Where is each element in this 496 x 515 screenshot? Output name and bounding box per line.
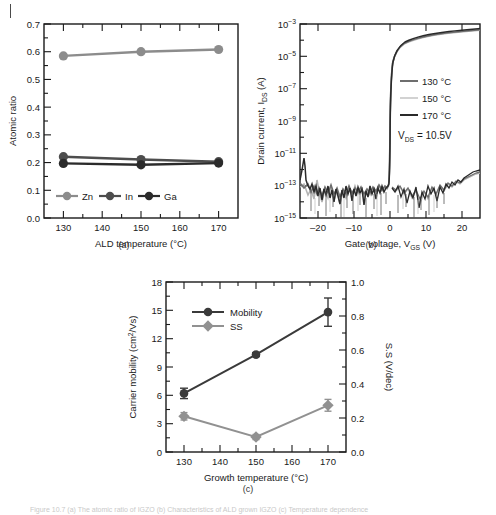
panel-b-caption: (b) (248, 240, 494, 250)
panel-c-ytick-r-2: 0.4 (351, 379, 364, 390)
panel-b-x-ticklabels: –20 –10 0 10 20 (310, 222, 467, 233)
panel-a-svg: 0.0 0.1 0.2 0.3 0.4 0.5 0.6 0.7 (2, 8, 246, 258)
panel-b-ytick-1: 10−5 (278, 50, 297, 62)
panel-c-xlabel: Growth temperature (°C) (204, 472, 308, 483)
panel-c-mobility-ss: 0 3 6 9 12 15 18 0.0 0.2 0.4 0.6 (96, 268, 426, 498)
panel-a-xtick-4: 170 (211, 222, 227, 233)
panel-c-ytick-r-3: 0.6 (351, 345, 364, 356)
panel-b-ytick-5: 10−13 (274, 179, 296, 191)
panel-a-ytick-4: 0.4 (27, 102, 40, 113)
panel-c-ytick-l-3: 9 (157, 362, 162, 373)
panel-c-xtick-4: 170 (320, 456, 336, 467)
panel-a-ytick-7: 0.7 (27, 19, 40, 30)
panel-b-xtick-4: 20 (457, 222, 468, 233)
panel-c-ytick-l-1: 3 (157, 418, 162, 429)
panel-c-ytick-l-6: 18 (151, 277, 162, 288)
panel-c-ytick-l-2: 6 (157, 390, 162, 401)
panel-c-ylabel-right: S.S (V/dec) (384, 343, 395, 392)
panel-b-svg: 10−3 10−5 10−7 10−9 10−11 10−13 10−15 –2… (248, 8, 494, 258)
panel-c-y-ticklabels-left: 0 3 6 9 12 15 18 (151, 277, 162, 458)
panel-a-x-ticklabels: 130 140 150 160 170 (55, 222, 226, 233)
panel-c-xtick-3: 160 (284, 456, 300, 467)
panel-a-ytick-1: 0.1 (27, 185, 40, 196)
panel-a-ytick-2: 0.2 (27, 157, 40, 168)
panel-b-y-ticklabels: 10−3 10−5 10−7 10−9 10−11 10−13 10−15 (274, 18, 296, 224)
panel-b-ytick-0: 10−3 (278, 18, 297, 30)
panel-c-ytick-r-5: 1.0 (351, 277, 364, 288)
panel-a-legend-in: In (125, 191, 133, 202)
panel-c-ytick-r-4: 0.8 (351, 311, 364, 322)
panel-b-legend-150: 150 °C (422, 93, 451, 104)
panel-a-xtick-1: 140 (94, 222, 110, 233)
panel-b-legend-130: 130 °C (422, 76, 451, 87)
panel-c-x-ticklabels: 130 140 150 160 170 (176, 456, 336, 467)
panel-b-ytick-4: 10−11 (274, 147, 296, 159)
panel-c-ytick-l-5: 15 (151, 305, 162, 316)
panel-b-ytick-3: 10−9 (278, 115, 297, 127)
panel-c-xtick-2: 150 (248, 456, 264, 467)
panel-c-ytick-r-1: 0.2 (351, 413, 364, 424)
panel-a-ylabel: Atomic ratio (7, 96, 18, 146)
panel-a-ytick-3: 0.3 (27, 129, 40, 140)
panel-c-xtick-0: 130 (176, 456, 192, 467)
panel-c-ylabel-left: Carrier mobility (cm2/Vs) (127, 315, 138, 418)
panel-c-legend-mobility: Mobility (230, 307, 262, 318)
panel-c-ytick-l-4: 12 (151, 333, 162, 344)
panel-c-legend-ss: SS (230, 321, 243, 332)
panel-c-y-ticklabels-right: 0.0 0.2 0.4 0.6 0.8 1.0 (351, 277, 364, 458)
panel-a-ytick-5: 0.5 (27, 74, 40, 85)
panel-c-caption: (c) (0, 484, 496, 494)
panel-b-xtick-3: 10 (421, 222, 432, 233)
figure-page: 0.0 0.1 0.2 0.3 0.4 0.5 0.6 0.7 (0, 0, 496, 515)
panel-b-xtick-1: –10 (346, 222, 362, 233)
panel-a-xtick-2: 150 (133, 222, 149, 233)
panel-b-xtick-2: 0 (387, 222, 392, 233)
panel-c-ytick-r-0: 0.0 (351, 447, 364, 458)
panel-a-legend-ga: Ga (164, 191, 177, 202)
panel-c-xtick-1: 140 (212, 456, 228, 467)
panel-a-ytick-0: 0.0 (27, 213, 40, 224)
panel-b-ylabel: Drain current, IDS (A) (255, 77, 268, 165)
panel-a-legend-zn: Zn (82, 191, 93, 202)
panel-b-ytick-6: 10−15 (274, 212, 296, 224)
figure-caption: Figure 10.7 (a) The atomic ratio of IGZO… (30, 505, 480, 514)
panel-a-ytick-6: 0.6 (27, 46, 40, 57)
panel-a-y-ticklabels: 0.0 0.1 0.2 0.3 0.4 0.5 0.6 0.7 (27, 19, 40, 224)
panel-b-legend-170: 170 °C (422, 110, 451, 121)
panel-b-xtick-0: –20 (310, 222, 326, 233)
panel-b-transfer-curves: 10−3 10−5 10−7 10−9 10−11 10−13 10−15 –2… (248, 8, 494, 258)
panel-c-svg: 0 3 6 9 12 15 18 0.0 0.2 0.4 0.6 (96, 268, 426, 498)
panel-b-ytick-2: 10−7 (278, 82, 297, 94)
panel-a-caption: (a) (2, 240, 246, 250)
panel-a-xtick-3: 160 (172, 222, 188, 233)
panel-a-xtick-0: 130 (55, 222, 71, 233)
panel-a-atomic-ratio: 0.0 0.1 0.2 0.3 0.4 0.5 0.6 0.7 (2, 8, 246, 258)
panel-c-ytick-l-0: 0 (157, 447, 162, 458)
